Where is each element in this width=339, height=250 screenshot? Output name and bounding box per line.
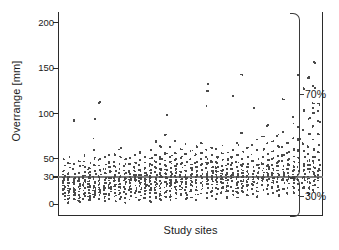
data-point <box>258 158 260 160</box>
data-point <box>304 180 306 182</box>
data-point <box>164 134 166 136</box>
data-point <box>304 173 306 175</box>
data-point <box>252 184 254 186</box>
data-point <box>166 169 168 171</box>
data-point <box>276 170 278 172</box>
data-point <box>135 197 137 199</box>
data-point <box>150 169 152 171</box>
data-point <box>220 170 222 172</box>
data-point <box>114 185 116 187</box>
data-point <box>144 193 146 195</box>
data-point <box>166 185 168 187</box>
data-point <box>170 167 172 169</box>
data-point <box>314 156 316 158</box>
data-point <box>206 181 208 183</box>
data-point <box>155 141 157 143</box>
data-point <box>194 162 196 164</box>
data-point <box>217 157 219 159</box>
data-point <box>184 189 186 191</box>
data-point <box>62 180 64 182</box>
data-point <box>171 155 173 157</box>
data-point <box>98 159 100 161</box>
data-point <box>181 162 183 164</box>
data-point <box>164 160 166 162</box>
data-point <box>174 165 176 167</box>
data-point <box>108 194 110 196</box>
data-point <box>171 188 173 190</box>
data-point <box>317 187 319 189</box>
data-point <box>64 192 66 194</box>
data-point <box>242 151 244 153</box>
data-point <box>159 193 161 195</box>
data-point <box>309 168 311 170</box>
data-point <box>160 163 162 165</box>
data-point <box>272 168 274 170</box>
data-point <box>165 191 167 193</box>
data-point <box>90 162 92 164</box>
data-point <box>181 156 183 158</box>
data-point <box>130 195 132 197</box>
data-point <box>256 190 258 192</box>
data-point <box>114 153 116 155</box>
data-point <box>110 177 112 179</box>
data-point <box>212 166 214 168</box>
data-point <box>69 167 71 169</box>
data-point <box>108 180 110 182</box>
data-point <box>83 193 85 195</box>
data-point <box>231 162 233 164</box>
data-point <box>78 194 80 196</box>
data-point <box>248 173 250 175</box>
data-point <box>232 174 234 176</box>
data-point <box>79 183 81 185</box>
data-point <box>314 62 316 64</box>
data-point <box>108 198 110 200</box>
data-point <box>84 166 86 168</box>
data-point <box>201 143 203 145</box>
data-point <box>185 174 187 176</box>
data-point <box>281 146 283 148</box>
data-point <box>175 198 177 200</box>
data-point <box>164 153 166 155</box>
data-point <box>166 153 168 155</box>
data-point <box>130 191 132 193</box>
data-point <box>246 147 248 149</box>
data-point <box>243 179 245 181</box>
data-point <box>180 148 182 150</box>
data-point <box>217 166 219 168</box>
data-point <box>165 181 167 183</box>
data-point <box>303 170 305 172</box>
data-point <box>236 166 238 168</box>
data-point <box>144 175 146 177</box>
data-point <box>184 165 186 167</box>
data-point <box>94 149 96 151</box>
data-point <box>238 162 240 164</box>
data-point <box>263 163 265 165</box>
data-point <box>211 196 213 198</box>
data-point <box>317 110 319 112</box>
data-point <box>100 192 102 194</box>
data-point <box>170 172 172 174</box>
data-point <box>108 166 110 168</box>
data-point <box>98 175 100 177</box>
data-point <box>89 171 91 173</box>
data-point <box>205 149 207 151</box>
data-point <box>125 189 127 191</box>
data-point <box>94 190 96 192</box>
data-point <box>277 178 279 180</box>
data-point <box>278 174 280 176</box>
data-point <box>154 160 156 162</box>
data-point <box>195 167 197 169</box>
data-point <box>235 188 237 190</box>
data-point <box>161 182 163 184</box>
data-point <box>313 148 315 150</box>
data-point <box>268 178 270 180</box>
data-point <box>237 176 239 178</box>
data-point <box>134 154 136 156</box>
data-point <box>185 143 187 145</box>
data-point <box>103 168 105 170</box>
data-point <box>103 185 105 187</box>
data-point <box>222 145 224 147</box>
data-point <box>140 174 142 176</box>
data-point <box>79 196 81 198</box>
data-point <box>304 156 306 158</box>
